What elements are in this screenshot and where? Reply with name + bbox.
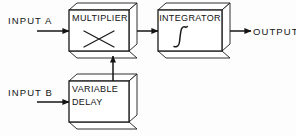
multiplier-side-face [129, 3, 137, 51]
integrator-block[interactable] [158, 3, 230, 58]
multiplier-label: MULTIPLIER [71, 14, 129, 23]
variable-delay-top-face [69, 74, 137, 81]
variable-delay-label-line2: DELAY [72, 98, 127, 107]
input-a-label: INPUT A [8, 16, 52, 26]
input-b-label: INPUT B [8, 88, 53, 98]
variable-delay-side-face [129, 74, 137, 122]
block-diagram-canvas: INPUT A INPUT B OUTPUT MULTIPLIER INTEGR… [0, 0, 296, 136]
integrator-bottom-face [158, 51, 230, 58]
multiplier-top-face [69, 3, 137, 10]
output-label: OUTPUT [253, 27, 296, 37]
variable-delay-label-line1: VARIABLE [72, 85, 127, 94]
multiplier-bottom-face [69, 51, 137, 58]
integrator-label: INTEGRATOR [159, 14, 221, 23]
integrator-side-face [222, 3, 230, 51]
multiplier-block[interactable] [69, 3, 137, 58]
integrator-top-face [158, 3, 230, 10]
variable-delay-bottom-face [69, 122, 137, 129]
